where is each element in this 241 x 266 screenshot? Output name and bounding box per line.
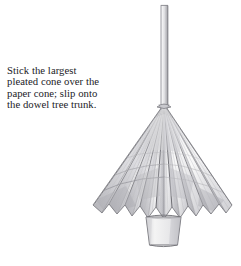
figure-root: Stick the largest pleated cone over the … <box>0 0 241 266</box>
instruction-caption: Stick the largest pleated cone over the … <box>7 65 132 111</box>
pot-group <box>146 215 181 247</box>
pleated-cone-tree-illustration <box>0 0 241 266</box>
dowel-trunk-group <box>161 5 168 106</box>
caption-line-4: the dowel tree trunk. <box>7 99 132 110</box>
